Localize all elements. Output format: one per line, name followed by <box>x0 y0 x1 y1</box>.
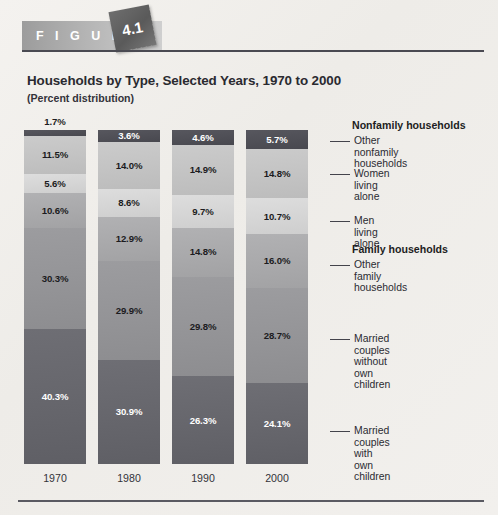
leader-line-icon <box>330 339 350 340</box>
bar-segment[interactable]: 14.8% <box>246 149 308 198</box>
bar-segment[interactable]: 29.8% <box>172 277 234 377</box>
bar-segment-value: 4.6% <box>192 133 213 143</box>
bar-segment-value: 26.3% <box>190 416 217 426</box>
x-axis-label-1990: 1990 <box>172 472 234 484</box>
leader-line-icon <box>330 265 350 266</box>
bar-segment[interactable]: 4.6% <box>172 130 234 145</box>
x-axis-label-1970: 1970 <box>24 472 86 484</box>
legend-label: Women living alone <box>354 168 390 203</box>
bar-segment-value: 10.7% <box>264 212 291 222</box>
bar-segment[interactable]: 11.5% <box>24 136 86 174</box>
bar-segment[interactable]: 40.3% <box>24 329 86 464</box>
bar-column-1970[interactable]: 1.7%11.5%5.6%10.6%30.3%40.3% <box>24 130 86 464</box>
x-axis-label-1980: 1980 <box>98 472 160 484</box>
bar-segment[interactable]: 10.6% <box>24 193 86 228</box>
bar-segment-value: 24.1% <box>264 419 291 429</box>
bar-segment-value: 28.7% <box>264 331 291 341</box>
stacked-bar-chart: 1.7%11.5%5.6%10.6%30.3%40.3%19703.6%14.0… <box>0 0 498 515</box>
bar-column-1990[interactable]: 4.6%14.9%9.7%14.8%29.8%26.3% <box>172 130 234 464</box>
bar-segment-value: 5.7% <box>266 135 287 145</box>
bar-segment[interactable]: 26.3% <box>172 376 234 464</box>
bar-segment-value: 30.9% <box>116 407 143 417</box>
bar-segment-value: 14.0% <box>116 161 143 171</box>
bar-segment-value: 10.6% <box>42 206 69 216</box>
leader-line-icon <box>330 174 350 175</box>
bar-segment[interactable]: 14.9% <box>172 145 234 195</box>
bar-segment-value: 8.6% <box>118 198 139 208</box>
bar-segment[interactable]: 14.0% <box>98 142 160 189</box>
bar-segment-value: 3.6% <box>118 131 139 141</box>
bar-segment[interactable]: 29.9% <box>98 261 160 361</box>
figure-page: F I G U R E 4.1 Households by Type, Sele… <box>0 0 498 515</box>
legend-label: Men living alone <box>354 215 379 250</box>
legend-heading-nonfamily: Nonfamily households <box>352 119 466 131</box>
bar-segment-value: 29.8% <box>190 322 217 332</box>
bar-segment-value: 14.8% <box>190 247 217 257</box>
legend-label: Other nonfamily households <box>354 135 407 170</box>
bar-segment[interactable]: 30.3% <box>24 228 86 329</box>
bar-segment[interactable]: 8.6% <box>98 189 160 218</box>
bar-segment[interactable]: 12.9% <box>98 217 160 260</box>
bar-segment-value: 1.7% <box>24 117 86 127</box>
bar-segment-value: 12.9% <box>116 234 143 244</box>
bar-segment[interactable]: 28.7% <box>246 288 308 384</box>
bar-segment-value: 40.3% <box>42 392 69 402</box>
bar-segment-value: 16.0% <box>264 256 291 266</box>
bar-segment-value: 9.7% <box>192 207 213 217</box>
bar-segment-value: 14.8% <box>264 169 291 179</box>
legend-label: Married couples without own children <box>354 333 390 391</box>
bar-segment-value: 14.9% <box>190 165 217 175</box>
legend-label: Married couples with own children <box>354 425 390 483</box>
leader-line-icon <box>330 431 350 432</box>
bar-segment[interactable]: 5.7% <box>246 130 308 149</box>
leader-line-icon <box>330 141 350 142</box>
bar-column-2000[interactable]: 5.7%14.8%10.7%16.0%28.7%24.1% <box>246 130 308 464</box>
bar-segment[interactable]: 16.0% <box>246 234 308 287</box>
bar-segment[interactable]: 5.6% <box>24 174 86 193</box>
bar-segment-value: 5.6% <box>44 179 65 189</box>
bar-segment-value: 29.9% <box>116 306 143 316</box>
bar-segment[interactable]: 30.9% <box>98 360 160 463</box>
legend-label: Other family households <box>354 259 407 294</box>
bar-segment[interactable]: 10.7% <box>246 198 308 234</box>
leader-line-icon <box>330 221 350 222</box>
footer-divider <box>18 500 484 502</box>
bar-segment[interactable]: 24.1% <box>246 383 308 463</box>
bar-segment[interactable]: 3.6% <box>98 130 160 142</box>
bar-segment[interactable]: 9.7% <box>172 195 234 227</box>
x-axis-label-2000: 2000 <box>246 472 308 484</box>
bar-column-1980[interactable]: 3.6%14.0%8.6%12.9%29.9%30.9% <box>98 130 160 464</box>
bar-segment[interactable]: 14.8% <box>172 228 234 277</box>
bar-segment-value: 11.5% <box>42 150 68 160</box>
bar-segment-value: 30.3% <box>42 274 69 284</box>
